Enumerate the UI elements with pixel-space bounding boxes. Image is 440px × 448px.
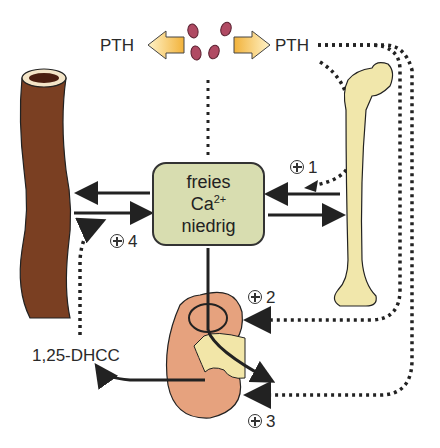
bone [334,63,392,306]
plus-circle-icon [248,290,262,304]
box-line-2: Ca2+ [191,193,227,215]
metabolite-label: 1,25-DHCC [32,346,120,366]
pth-arrow-right [234,31,270,59]
pth-label-left: PTH [100,36,134,56]
pth-arrow-left [148,31,184,59]
effect-2: 2 [248,288,275,308]
effect-3: 3 [248,412,275,432]
box-line-1: freies [186,171,230,193]
kidney [167,292,246,418]
plus-circle-icon [290,160,304,174]
effect-4: 4 [110,232,137,252]
intestine [20,69,70,318]
pth-label-right: PTH [275,36,309,56]
box-line-3: niedrig [181,215,235,237]
plus-circle-icon [110,234,124,248]
plus-circle-icon [248,414,262,428]
free-calcium-low-box: freies Ca2+ niedrig [152,162,265,246]
effect-1: 1 [290,158,317,178]
pth-particles [186,21,233,61]
